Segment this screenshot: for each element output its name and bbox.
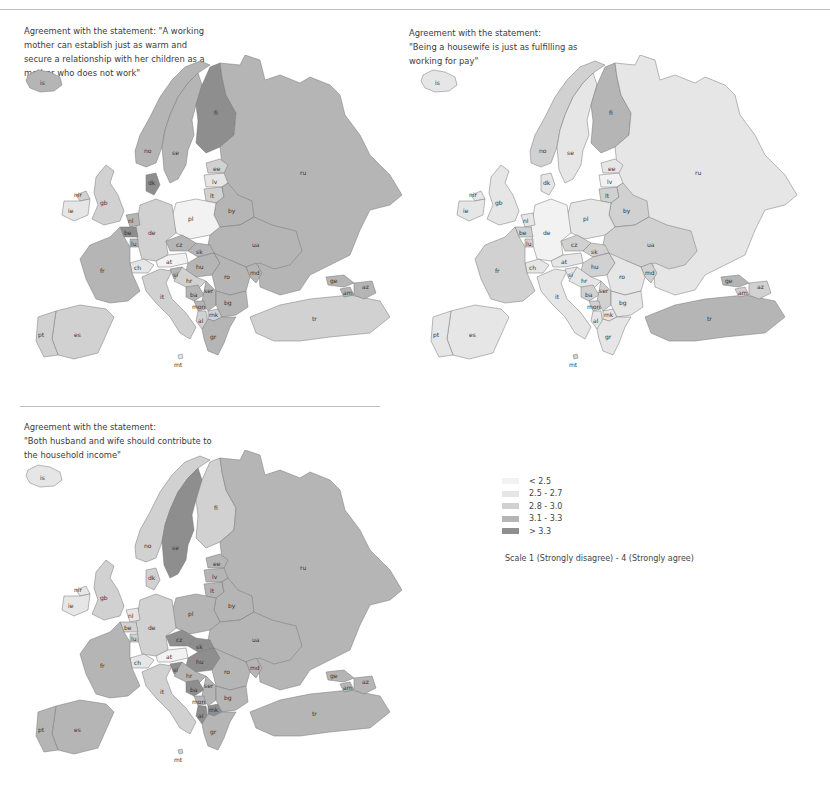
svg-text:ro: ro [619,273,625,280]
svg-text:si: si [173,271,178,278]
country-de [136,594,176,656]
svg-text:it: it [160,293,165,300]
svg-text:am: am [343,289,353,296]
svg-text:sk: sk [196,643,203,650]
svg-text:sk: sk [196,248,203,255]
svg-text:ie: ie [68,207,74,214]
svg-text:no: no [144,147,152,154]
country-mt [178,749,183,754]
map-both-contribute: is no se fi ru ee lv lt by ua md pl de d… [10,450,410,796]
svg-text:ser: ser [204,682,214,689]
svg-text:ser: ser [204,287,214,294]
svg-text:tr: tr [707,315,712,322]
svg-text:gb: gb [495,199,503,207]
separator-top [0,9,830,10]
svg-text:ba: ba [585,291,593,298]
svg-text:fi: fi [214,109,218,116]
svg-text:mon: mon [192,303,206,310]
svg-text:md: md [250,269,260,276]
svg-text:lu: lu [131,240,137,247]
svg-text:al: al [198,712,204,719]
svg-text:by: by [228,207,236,215]
svg-text:be: be [124,624,132,631]
svg-text:bg: bg [619,299,627,307]
legend-swatch [502,491,519,497]
country-mt [573,354,578,359]
svg-text:lv: lv [212,573,218,580]
svg-text:it: it [160,688,165,695]
svg-text:gb: gb [100,199,108,207]
svg-text:mt: mt [174,756,183,763]
country-gr [202,317,236,355]
svg-text:ch: ch [134,659,141,666]
country-bg [216,291,248,317]
svg-text:mk: mk [604,311,614,318]
country-bg [216,686,248,712]
svg-text:nir: nir [469,191,477,198]
svg-text:by: by [623,207,631,215]
country-tr [250,690,390,736]
country-tr [250,295,390,341]
svg-text:ee: ee [213,560,221,567]
svg-text:mk: mk [209,311,219,318]
svg-text:pt: pt [38,726,45,734]
svg-text:ge: ge [725,277,733,285]
country-gb [92,165,124,225]
legend: < 2.5 2.5 - 2.7 2.8 - 3.0 3.1 - 3.3 > 3.… [502,475,562,538]
country-pl [172,199,220,239]
svg-text:mt: mt [569,361,578,368]
svg-text:mk: mk [209,706,219,713]
country-ie [62,199,90,221]
svg-text:gr: gr [210,728,217,736]
svg-text:be: be [124,229,132,236]
country-mt [178,354,183,359]
country-es [52,700,114,754]
svg-text:nl: nl [523,217,529,224]
svg-text:se: se [172,149,179,156]
svg-text:is: is [40,79,45,86]
svg-text:de: de [148,624,156,631]
legend-swatch [502,528,519,534]
legend-item: 3.1 - 3.3 [502,513,562,526]
svg-text:nl: nl [128,217,134,224]
svg-text:pl: pl [188,215,194,223]
svg-text:md: md [250,664,260,671]
svg-text:ru: ru [695,169,701,176]
svg-text:es: es [74,726,81,733]
svg-text:fi: fi [214,504,218,511]
svg-text:am: am [738,289,748,296]
svg-text:nir: nir [74,191,82,198]
svg-text:at: at [166,258,173,265]
scale-note: Scale 1 (Strongly disagree) - 4 (Strongl… [505,554,694,563]
svg-text:fr: fr [495,267,500,274]
svg-text:dk: dk [148,574,156,581]
svg-text:ch: ch [529,264,536,271]
svg-text:si: si [568,271,573,278]
svg-text:lv: lv [212,178,218,185]
svg-text:ua: ua [252,241,260,248]
svg-text:gr: gr [605,333,612,341]
svg-text:nir: nir [74,586,82,593]
svg-text:ua: ua [647,241,655,248]
country-gr [597,317,631,355]
svg-text:ge: ge [330,277,338,285]
svg-text:hu: hu [196,658,204,665]
svg-text:pl: pl [188,610,194,618]
svg-text:nl: nl [128,612,134,619]
svg-text:pl: pl [583,215,589,223]
svg-text:mon: mon [192,698,206,705]
svg-text:be: be [519,229,527,236]
legend-item: 2.8 - 3.0 [502,500,562,513]
svg-text:am: am [343,684,353,691]
svg-text:de: de [148,229,156,236]
svg-text:sk: sk [591,248,598,255]
country-bg [611,291,643,317]
svg-text:bg: bg [224,694,232,702]
svg-text:ge: ge [330,672,338,680]
country-pl [172,594,220,634]
svg-text:it: it [555,293,560,300]
svg-text:hu: hu [591,263,599,270]
svg-text:cz: cz [571,241,577,248]
country-es [52,305,114,359]
legend-swatch [502,516,519,522]
